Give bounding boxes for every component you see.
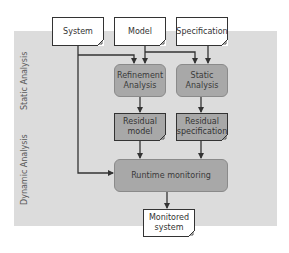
page-fold-icon — [221, 39, 228, 46]
refinement-line2: Analysis — [117, 81, 163, 91]
residual-spec-line2: specification — [177, 127, 227, 137]
residual-model-line2: model — [123, 127, 157, 137]
static-analysis-process: StaticAnalysis — [176, 64, 228, 97]
residual-model-document: Residualmodel — [114, 113, 166, 141]
residual-spec-line1: Residual — [177, 117, 227, 127]
runtime-monitoring-process: Runtime monitoring — [114, 159, 228, 192]
specification-label: Specification — [176, 27, 227, 37]
page-fold-icon — [97, 39, 104, 46]
refinement-analysis-process: RefinementAnalysis — [114, 64, 166, 97]
system-label: System — [63, 27, 93, 37]
page-fold-icon — [159, 39, 166, 46]
model-document: Model — [114, 17, 166, 46]
residual-specification-document: Residualspecification — [176, 113, 228, 141]
monitored-system-document: Monitoredsystem — [143, 209, 195, 237]
page-fold-icon — [159, 134, 166, 141]
monitored-line1: Monitored — [149, 213, 189, 223]
runtime-monitoring-label: Runtime monitoring — [131, 171, 211, 181]
residual-model-line1: Residual — [123, 117, 157, 127]
edge-model-static — [145, 52, 195, 63]
specification-document: Specification — [176, 17, 228, 46]
refinement-line1: Refinement — [117, 71, 163, 81]
system-document: System — [52, 17, 104, 46]
edge-system-runtime — [78, 46, 113, 173]
page-fold-icon — [188, 230, 195, 237]
static-line1: Static — [186, 71, 219, 81]
page-fold-icon — [221, 134, 228, 141]
model-label: Model — [128, 27, 152, 37]
static-line2: Analysis — [186, 81, 219, 91]
monitored-line2: system — [149, 223, 189, 233]
edge-system-refinement — [78, 55, 134, 63]
